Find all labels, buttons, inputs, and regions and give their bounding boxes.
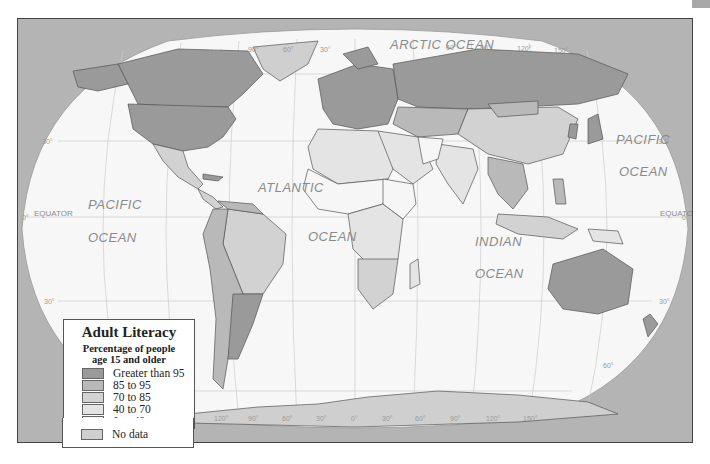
pacific-west-label-1: PACIFIC [88, 197, 142, 212]
legend-subtitle: Percentage of people age 15 and older [64, 343, 194, 365]
atlantic-label-2: OCEAN [308, 229, 357, 244]
svg-text:60°: 60° [446, 44, 457, 51]
svg-text:120°: 120° [214, 415, 229, 422]
svg-text:30°: 30° [658, 138, 669, 145]
svg-text:90°: 90° [248, 46, 259, 53]
svg-text:30°: 30° [316, 415, 327, 422]
indian-label-2: OCEAN [475, 266, 524, 281]
legend-item-greater-than-95: Greater than 95 [82, 367, 185, 379]
svg-text:60°: 60° [415, 415, 426, 422]
svg-text:150°: 150° [554, 47, 569, 54]
legend-swatch [82, 380, 104, 391]
equator-label-left: EQUATOR [34, 209, 73, 218]
pacific-east-label-2: OCEAN [619, 164, 668, 179]
svg-text:120°: 120° [517, 45, 532, 52]
svg-text:60°: 60° [282, 415, 293, 422]
legend-item-no-data: No data [81, 428, 148, 440]
map-legend: Adult Literacy Percentage of people age … [63, 319, 195, 429]
legend-swatch [82, 404, 104, 415]
legend-title: Adult Literacy [64, 324, 194, 341]
legend-no-data-box: No data [62, 418, 194, 448]
pacific-west-label-2: OCEAN [88, 230, 137, 245]
svg-text:60°: 60° [603, 362, 614, 369]
legend-item-40-to-70: 40 to 70 [82, 403, 151, 415]
svg-text:90°: 90° [450, 415, 461, 422]
legend-item-70-to-85: 70 to 85 [82, 391, 151, 403]
arctic-ocean-label: ARCTIC OCEAN [389, 37, 494, 52]
svg-text:0°: 0° [22, 214, 29, 221]
russia [393, 49, 628, 109]
svg-text:60°: 60° [283, 46, 294, 53]
svg-text:30°: 30° [44, 298, 55, 305]
korea [568, 124, 578, 139]
legend-item-85-to-95: 85 to 95 [82, 379, 151, 391]
svg-text:150°: 150° [523, 415, 538, 422]
svg-text:30°: 30° [659, 298, 670, 305]
svg-text:0°: 0° [682, 214, 689, 221]
world-map: ARCTIC OCEAN PACIFIC OCEAN ATLANTIC OCEA… [17, 18, 693, 443]
svg-text:120°: 120° [208, 49, 223, 56]
svg-text:30°: 30° [320, 46, 331, 53]
svg-text:30°: 30° [42, 138, 53, 145]
legend-swatch [81, 429, 103, 440]
legend-swatch [82, 392, 104, 403]
svg-text:60°: 60° [100, 73, 111, 80]
legend-swatch [82, 368, 104, 379]
madagascar [410, 259, 420, 289]
svg-text:0°: 0° [351, 415, 358, 422]
svg-text:90°: 90° [248, 415, 259, 422]
svg-text:30°: 30° [382, 415, 393, 422]
svg-text:90°: 90° [480, 44, 491, 51]
svg-text:120°: 120° [486, 415, 501, 422]
corner-tab [692, 0, 710, 8]
atlantic-label-1: ATLANTIC [257, 180, 324, 195]
indian-label-1: INDIAN [475, 234, 522, 249]
svg-text:150°: 150° [174, 51, 189, 58]
